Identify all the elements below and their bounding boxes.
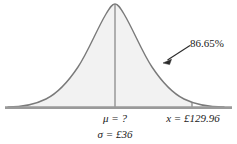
shaded-area-under-curve (8, 4, 192, 107)
percent-annotation-label: 86.65% (190, 38, 224, 49)
mean-label: μ = ? (103, 113, 127, 124)
annotation-arrow (163, 46, 190, 65)
sigma-label: σ = £36 (98, 129, 133, 140)
x-value-label: x = £129.96 (166, 113, 220, 124)
